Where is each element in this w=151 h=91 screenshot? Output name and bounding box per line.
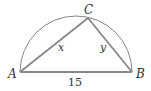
side-bc-label: y: [99, 41, 107, 54]
side-ac: [20, 18, 88, 72]
side-ab-label: 15: [68, 76, 82, 89]
side-ac-label: x: [58, 41, 65, 54]
point-c-label: C: [84, 3, 93, 17]
diagram-canvas: A B C x y 15: [0, 0, 151, 91]
point-a-label: A: [7, 67, 17, 81]
semicircle-arc: [20, 16, 132, 72]
point-b-label: B: [135, 67, 145, 81]
